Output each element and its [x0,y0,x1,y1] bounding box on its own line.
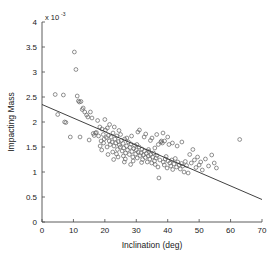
y-tick-label: 1.5 [26,143,38,152]
x-tick-label: 0 [40,226,45,235]
x-axis-title: Inclination (deg) [122,240,183,250]
x-tick-label: 60 [226,226,235,235]
y-tick-label: 0.5 [26,193,38,202]
x-tick-label: 40 [163,226,172,235]
y-axis-title: Impacting Mass [6,92,16,152]
y-tick-label: 3 [33,68,38,77]
x-tick-label: 10 [69,226,78,235]
x-tick-label: 50 [195,226,204,235]
y-tick-label: 2 [33,118,38,127]
y-multiplier-exponent: -3 [61,11,66,17]
y-tick-label: 4 [33,18,38,27]
x-tick-label: 70 [258,226,267,235]
y-tick-label: 1 [33,168,38,177]
x-tick-label: 20 [100,226,109,235]
chart-figure: 00.511.522.533.54 010203040506070 x 10 -… [0,0,280,264]
y-tick-label: 2.5 [26,93,38,102]
y-tick-label: 0 [33,218,38,227]
x-tick-label: 30 [132,226,141,235]
y-multiplier-base: x 10 [45,13,59,22]
y-tick-label: 3.5 [26,43,38,52]
scatter-plot-canvas: 00.511.522.533.54 010203040506070 x 10 -… [0,0,280,264]
